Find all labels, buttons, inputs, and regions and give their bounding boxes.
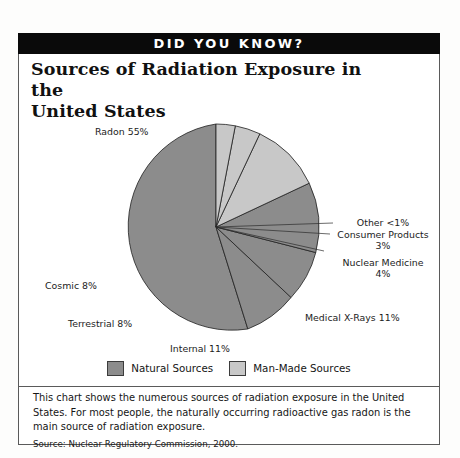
footer-divider xyxy=(19,386,439,387)
pie-chart: Radon 55% Cosmic 8% Terrestrial 8% Inter… xyxy=(19,100,439,352)
banner-label: DID YOU KNOW? xyxy=(153,36,304,51)
footer: This chart shows the numerous sources of… xyxy=(33,391,425,449)
legend-swatch-natural xyxy=(107,361,124,376)
page-title-line1: Sources of Radiation Exposure in the xyxy=(31,59,381,101)
legend-swatch-manmade xyxy=(229,361,246,376)
legend-item-manmade: Man-Made Sources xyxy=(229,361,351,376)
footer-source: Source: Nuclear Regulatory Commission, 2… xyxy=(33,439,425,449)
legend-label-manmade: Man-Made Sources xyxy=(253,362,351,374)
did-you-know-banner: DID YOU KNOW? xyxy=(18,33,440,54)
pie-chart-oriented xyxy=(19,100,439,352)
chart-legend: Natural Sources Man-Made Sources xyxy=(19,357,439,379)
footer-description: This chart shows the numerous sources of… xyxy=(33,391,425,435)
legend-label-natural: Natural Sources xyxy=(131,362,213,374)
legend-item-natural: Natural Sources xyxy=(107,361,213,376)
